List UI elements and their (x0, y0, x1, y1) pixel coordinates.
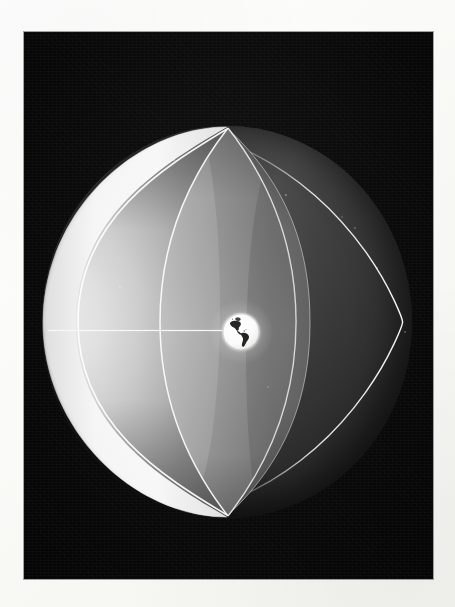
earth-continents (222, 313, 260, 351)
photo-page (0, 0, 455, 607)
central-earth-globe (222, 313, 260, 351)
earth-disc (222, 313, 260, 351)
photograph (24, 32, 433, 579)
sphere-stage (24, 32, 433, 579)
